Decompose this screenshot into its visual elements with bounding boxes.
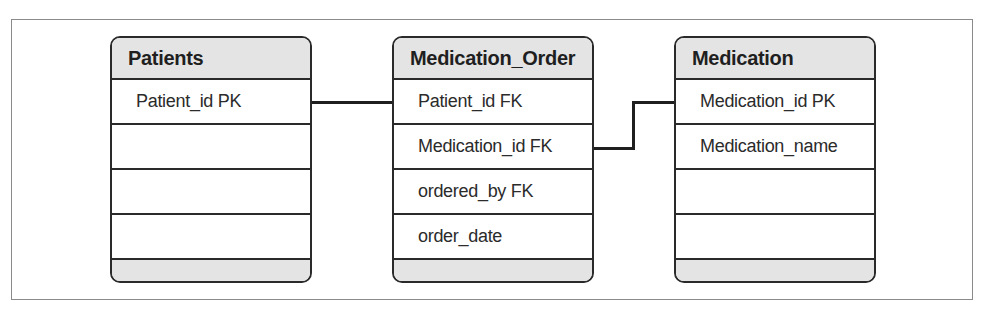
entity-title: Medication_Order xyxy=(394,38,592,80)
entity-medication: Medication Medication_id PK Medication_n… xyxy=(674,36,876,283)
field-row: Patient_id PK xyxy=(112,80,310,125)
entity-title: Medication xyxy=(676,38,874,80)
entity-patients: Patients Patient_id PK xyxy=(110,36,312,283)
field-row: Medication_id PK xyxy=(676,80,874,125)
relationship-line-order-medication-v xyxy=(632,102,635,150)
field-row: Medication_id FK xyxy=(394,125,592,170)
entity-medication-order: Medication_Order Patient_id FK Medicatio… xyxy=(392,36,594,283)
field-row xyxy=(676,215,874,260)
field-row: order_date xyxy=(394,215,592,260)
entity-title: Patients xyxy=(112,38,310,80)
relationship-line-order-medication-h2 xyxy=(632,101,674,104)
field-row xyxy=(112,125,310,170)
field-row: ordered_by FK xyxy=(394,170,592,215)
entity-footer xyxy=(676,260,874,281)
relationship-line-order-medication-h1 xyxy=(594,147,634,150)
entity-footer xyxy=(394,260,592,281)
field-row: Medication_name xyxy=(676,125,874,170)
field-row: Patient_id FK xyxy=(394,80,592,125)
entity-footer xyxy=(112,260,310,281)
field-row xyxy=(112,215,310,260)
field-row xyxy=(112,170,310,215)
relationship-line-patients-order xyxy=(312,101,392,104)
field-row xyxy=(676,170,874,215)
